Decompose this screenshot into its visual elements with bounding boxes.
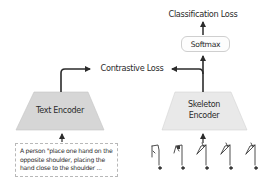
skeleton-encoder-label: Skeleton Encoder [188, 99, 220, 121]
softmax-label: Softmax [191, 40, 220, 49]
contrastive-loss-label: Contrastive Loss [101, 63, 164, 73]
skeleton-encoder-label-line2: Encoder [188, 110, 220, 121]
skeleton-encoder-label-line1: Skeleton [188, 99, 220, 110]
skeleton-to-contrastive-arrow [172, 69, 203, 74]
softmax-box: Softmax [181, 36, 230, 52]
skeleton-frames [152, 143, 257, 169]
text-description-box: A person "place one hand on the opposite… [15, 143, 118, 177]
text-to-contrastive-arrow [61, 69, 90, 92]
skeleton-pose-icon [174, 145, 184, 169]
text-description: A person "place one hand on the opposite… [20, 147, 112, 171]
skeleton-pose-icon [152, 145, 161, 169]
classification-loss-label: Classification Loss [168, 9, 237, 19]
skeleton-pose-icon [246, 143, 257, 169]
skeleton-pose-icon [221, 143, 232, 169]
skeleton-pose-icon [197, 143, 208, 169]
text-encoder-label: Text Encoder [36, 106, 84, 115]
